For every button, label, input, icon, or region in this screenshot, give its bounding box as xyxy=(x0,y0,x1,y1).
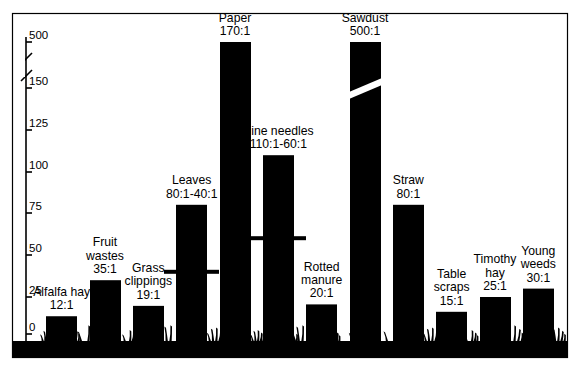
chart-canvas: 0255075100125150500 Alfalfa hay12:1Fruit… xyxy=(0,0,576,370)
bar-paper[interactable] xyxy=(220,42,251,345)
bar-group-fruit-wastes[interactable] xyxy=(90,280,121,345)
bar-group-paper[interactable] xyxy=(220,42,251,345)
bar-label-fruit-wastes-line-0: Fruit xyxy=(93,235,118,249)
bar-label-alfalfa-hay-line-0: Alfalfa hay xyxy=(33,285,91,299)
bar-label-table-scraps-line-2: 15:1 xyxy=(440,294,464,308)
bar-straw[interactable] xyxy=(393,205,424,345)
bar-fruit-wastes[interactable] xyxy=(90,280,121,345)
bar-label-rotted-manure-line-1: manure xyxy=(301,273,343,287)
bar-label-grass-clippings-line-0: Grass xyxy=(132,261,165,275)
y-tick-label-100: 100 xyxy=(29,159,48,171)
bar-label-leaves-line-1: 80:1-40:1 xyxy=(166,187,218,201)
bar-label-table-scraps-line-1: scraps xyxy=(434,280,470,294)
bar-label-young-weeds-line-2: 30:1 xyxy=(526,271,550,285)
bar-leaves[interactable] xyxy=(176,205,207,345)
ground-strip xyxy=(13,341,567,357)
bar-label-grass-clippings-line-2: 19:1 xyxy=(136,288,160,302)
y-tick-label-0: 0 xyxy=(29,321,35,333)
bar-label-timothy-hay-line-0: Timothy xyxy=(474,252,518,266)
bar-label-alfalfa-hay-line-1: 12:1 xyxy=(50,298,74,312)
range-marker-pine-needles xyxy=(251,236,306,240)
bar-label-young-weeds-line-1: weeds xyxy=(520,257,556,271)
bar-label-straw-line-1: 80:1 xyxy=(396,187,420,201)
bar-label-rotted-manure-line-2: 20:1 xyxy=(310,286,334,300)
range-marker-leaves xyxy=(164,270,219,274)
y-tick-label-125: 125 xyxy=(29,117,48,129)
bar-label-timothy-hay-line-2: 25:1 xyxy=(483,279,507,293)
bar-label-sawdust-line-0: Sawdust xyxy=(342,11,389,25)
bar-group-sawdust[interactable] xyxy=(349,42,382,345)
bar-label-leaves-line-0: Leaves xyxy=(172,173,211,187)
y-tick-label-150: 150 xyxy=(29,75,48,87)
bar-label-paper-line-1: 170:1 xyxy=(220,24,251,38)
bar-label-pine-needles-line-0: Pine needles xyxy=(243,124,313,138)
y-tick-label-500: 500 xyxy=(29,29,48,41)
bar-label-timothy-hay-line-1: hay xyxy=(485,266,506,280)
bar-pine-needles[interactable] xyxy=(263,155,294,345)
bar-label-young-weeds-line-0: Young xyxy=(521,244,555,258)
bar-label-paper-line-0: Paper xyxy=(219,11,252,25)
bar-label-rotted-manure-line-0: Rotted xyxy=(304,260,340,274)
bar-label-grass-clippings-line-1: clippings xyxy=(125,274,172,288)
composting-ratio-chart-figure: 0255075100125150500 Alfalfa hay12:1Fruit… xyxy=(0,0,576,370)
bar-label-sawdust-line-1: 500:1 xyxy=(350,24,381,38)
y-tick-label-75: 75 xyxy=(29,200,42,212)
bar-label-straw-line-0: Straw xyxy=(393,173,424,187)
bar-label-fruit-wastes-line-2: 35:1 xyxy=(93,262,117,276)
bar-label-fruit-wastes-line-1: wastes xyxy=(85,249,124,263)
y-tick-label-50: 50 xyxy=(29,242,42,254)
bar-group-straw[interactable] xyxy=(393,205,424,345)
bar-label-pine-needles-line-1: 110:1-60:1 xyxy=(250,137,308,151)
bar-label-table-scraps-line-0: Table xyxy=(437,267,466,281)
